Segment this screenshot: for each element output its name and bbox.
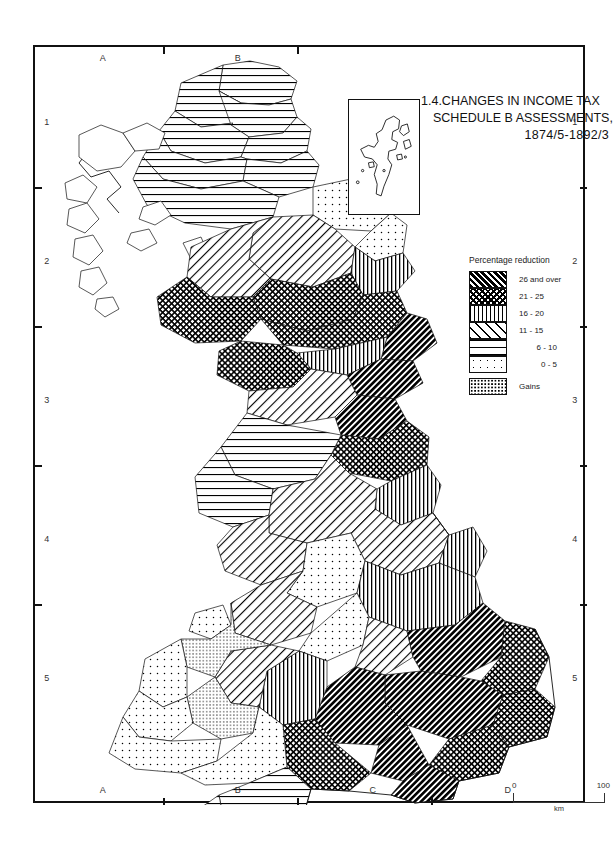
graticule-top-tick-2 (297, 47, 299, 54)
legend-swatch-21-25 (469, 288, 507, 305)
graticule-right-tick-2 (580, 326, 587, 328)
graticule-left-label-1: 1 (39, 117, 55, 127)
legend-label-gains: Gains (519, 382, 540, 391)
title-line-1: 1.4.CHANGES IN INCOME TAX (421, 93, 615, 110)
legend-row-16-20: 16 - 20 (469, 305, 579, 322)
legend-swatch-16-20 (469, 305, 507, 322)
map-canvas (35, 47, 587, 805)
shetland-inset-map (349, 100, 419, 214)
graticule-top-label-a: A (95, 53, 111, 63)
legend-heading: Percentage reduction (469, 255, 579, 265)
graticule-bottom-label-c: C (365, 785, 381, 795)
graticule-left-tick-1 (35, 187, 42, 189)
graticule-left-tick-3 (35, 465, 42, 467)
shetland-islands-inset (348, 99, 420, 215)
graticule-right-tick-1 (580, 187, 587, 189)
legend-swatch-0-5 (469, 356, 507, 373)
graticule-left-tick-2 (35, 326, 42, 328)
graticule-top-label-b: B (230, 53, 246, 63)
graticule-left-label-3: 3 (39, 395, 55, 405)
graticule-bottom-label-d: D (500, 785, 516, 795)
scale-bar: 0 100 km (513, 793, 605, 813)
legend-swatch-11-15 (469, 322, 507, 339)
legend-swatch-6-10 (469, 339, 507, 356)
graticule-bottom-tick-3 (431, 798, 433, 805)
legend-label-6-10: 6 - 10 (511, 343, 557, 352)
legend-label-16-20: 16 - 20 (519, 309, 544, 318)
legend-row-21-25: 21 - 25 (469, 288, 579, 305)
graticule-left-label-2: 2 (39, 256, 55, 266)
title-line-3: 1874/5-1892/3 (421, 127, 615, 144)
graticule-left-tick-4 (35, 604, 42, 606)
legend-swatch-gains (469, 378, 507, 395)
graticule-bottom-tick-1 (163, 798, 165, 805)
legend-label-11-15: 11 - 15 (519, 326, 543, 335)
legend-row-6-10: 6 - 10 (469, 339, 579, 356)
map-legend: Percentage reduction 26 and over 21 - 25… (469, 255, 579, 395)
title-line-2: SCHEDULE B ASSESSMENTS, (421, 110, 615, 127)
figure-title: 1.4.CHANGES IN INCOME TAX SCHEDULE B ASS… (421, 93, 615, 144)
graticule-bottom-tick-2 (297, 798, 299, 805)
graticule-right-label-1: 1 (567, 117, 583, 127)
legend-label-21-25: 21 - 25 (519, 292, 544, 301)
graticule-right-tick-3 (580, 465, 587, 467)
graticule-right-label-4: 4 (567, 534, 583, 544)
graticule-right-tick-4 (580, 604, 587, 606)
scale-bar-line: 0 100 (513, 793, 605, 803)
graticule-right-label-2: 2 (567, 256, 583, 266)
legend-row-26-and-over: 26 and over (469, 271, 579, 288)
legend-row-11-15: 11 - 15 (469, 322, 579, 339)
graticule-left-label-4: 4 (39, 534, 55, 544)
graticule-right-label-3: 3 (567, 395, 583, 405)
graticule-bottom-label-b: B (230, 785, 246, 795)
graticule-right-label-5: 5 (567, 673, 583, 683)
figure-page: 1.4.CHANGES IN INCOME TAX SCHEDULE B ASS… (0, 0, 615, 852)
legend-row-gains: Gains (469, 378, 579, 395)
legend-row-0-5: 0 - 5 (469, 356, 579, 373)
graticule-bottom-label-a: A (95, 785, 111, 795)
scale-max-label: 100 (597, 781, 610, 790)
map-neatline-frame: 1.4.CHANGES IN INCOME TAX SCHEDULE B ASS… (33, 45, 585, 803)
graticule-left-label-5: 5 (39, 673, 55, 683)
legend-label-26-and-over: 26 and over (519, 275, 561, 284)
graticule-top-tick-1 (163, 47, 165, 54)
scale-units-label: km (513, 804, 605, 813)
legend-swatch-26-and-over (469, 271, 507, 288)
legend-label-0-5: 0 - 5 (511, 360, 557, 369)
